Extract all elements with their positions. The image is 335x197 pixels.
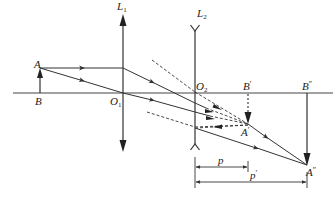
label-o1: O1 [110,96,121,109]
label-b-prime: B′ [243,81,251,92]
label-l2: L2 [197,8,207,21]
object-ab [37,68,43,93]
solid-rays [40,68,307,165]
label-a-prime: A′ [241,127,249,138]
dashed-rays [147,60,248,128]
label-b-double-prime: B″ [302,81,312,92]
diagram-canvas [0,0,335,197]
label-a: A [34,59,41,70]
lens-l1-bottom-arrow-icon [120,140,127,152]
virtual-image-a-prime-b-prime [245,94,252,124]
label-a-double-prime: A″ [306,167,316,178]
label-o2: O2 [196,81,207,94]
label-p: p [218,155,224,166]
optics-diagram: A B L1 L2 O1 O2 B′ A′ B″ A″ p p′ [0,0,335,197]
lens-l2-top-v-icon [191,25,200,31]
label-b: B [35,96,42,107]
label-p-prime: p′ [250,170,257,181]
lens-l1 [120,14,127,152]
lens-l1-top-arrow-icon [120,14,127,26]
lens-l2-bottom-v-icon [191,144,200,150]
final-image-a-double-b-double [304,93,311,166]
dashed-arrowheads [205,104,222,129]
label-l1: L1 [117,1,127,14]
